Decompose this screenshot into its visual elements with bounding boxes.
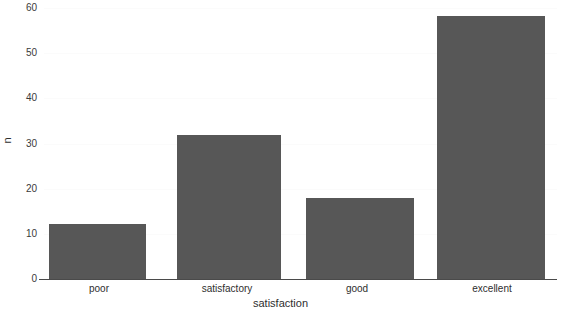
x-tick-label-poor: poor <box>59 283 139 295</box>
y-tick-label-60: 60 <box>3 3 37 13</box>
bar-chart: 60 50 40 30 20 10 0 poor satisfactory go… <box>0 0 561 315</box>
x-tick-label-satisfactory: satisfactory <box>177 283 277 295</box>
x-axis-title: satisfaction <box>0 297 561 310</box>
y-tick-label-40: 40 <box>3 93 37 103</box>
gridline-60 <box>44 8 557 9</box>
y-tick-label-10: 10 <box>3 229 37 239</box>
bar-satisfactory <box>177 135 281 280</box>
bar-poor <box>49 224 146 280</box>
bar-good <box>306 198 414 280</box>
x-axis-line <box>44 279 557 280</box>
x-tick-label-good: good <box>317 283 397 295</box>
y-tick-label-50: 50 <box>3 48 37 58</box>
y-tick-label-0: 0 <box>3 274 37 284</box>
y-axis-tick-labels: 60 50 40 30 20 10 0 <box>0 0 37 315</box>
plot-area <box>44 0 557 280</box>
y-axis-title: n <box>1 128 14 154</box>
x-tick-label-excellent: excellent <box>447 283 537 295</box>
y-tick-label-20: 20 <box>3 184 37 194</box>
bar-excellent <box>437 16 545 280</box>
